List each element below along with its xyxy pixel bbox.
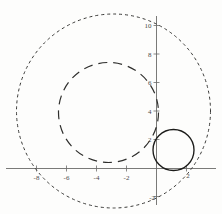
x-tick-label-neg4: -4 xyxy=(94,174,100,182)
x-tick-label-pos2: 2 xyxy=(186,172,190,180)
x-tick-label-neg8: -8 xyxy=(34,174,40,182)
y-tick-label-8: 8 xyxy=(148,51,152,59)
y-tick-label-6: 6 xyxy=(148,79,152,87)
y-tick-label-neg2: -2 xyxy=(149,194,155,202)
plot-figure: -8 -6 -4 -2 2 10 8 6 4 2 -2 xyxy=(0,0,222,214)
x-tick-label-neg2: -2 xyxy=(124,174,130,182)
y-tick-label-10: 10 xyxy=(145,22,153,30)
x-tick-label-neg6: -6 xyxy=(64,174,70,182)
y-tick-label-2: 2 xyxy=(148,136,152,144)
y-tick-label-4: 4 xyxy=(148,108,152,116)
plot-canvas: -8 -6 -4 -2 2 10 8 6 4 2 -2 xyxy=(0,0,222,214)
